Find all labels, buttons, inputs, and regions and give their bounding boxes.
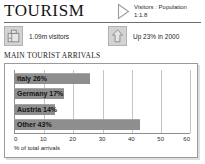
chart-bars: Italy 26%Germany 17%Austria 14%Other 43%	[14, 70, 190, 133]
stats-row: 1.09m visitors Up 23% in 2000	[4, 26, 201, 48]
chart-x-tick: 40	[128, 135, 135, 143]
chart-x-tick: 30	[99, 135, 106, 143]
chart-bar-label: Austria 14%	[17, 104, 57, 115]
stat-visitors-label: 1.09m visitors	[29, 32, 69, 41]
ratio-text: Visitors : Population 1:1.8	[134, 2, 187, 19]
bar-chart-panel: Italy 26%Germany 17%Austria 14%Other 43%…	[4, 63, 198, 158]
triangle-right-icon	[117, 3, 130, 20]
header-divider	[4, 22, 201, 23]
stat-visitors: 1.09m visitors	[4, 26, 69, 46]
chart-x-tick: 20	[69, 135, 76, 143]
chart-x-axis	[14, 133, 190, 134]
stat-growth: Up 23% in 2000	[108, 26, 179, 46]
chart-bar-label: Germany 17%	[17, 88, 63, 99]
chart-bar-label: Other 43%	[17, 119, 52, 130]
chart-bar-row: Italy 26%	[14, 73, 190, 84]
chart-x-tick: 0	[14, 135, 17, 143]
page-title: TOURISM	[4, 2, 84, 20]
chart-bar-row: Germany 17%	[14, 88, 190, 99]
chart-x-axis-label: % of total arrivals	[14, 144, 60, 152]
chart-x-tick-labels: 0102030405060	[14, 135, 190, 144]
visitors-population-ratio: Visitors : Population 1:1.8	[117, 2, 187, 20]
chart-x-tick: 50	[157, 135, 164, 143]
suitcase-icon	[4, 26, 23, 46]
chart-bar-label: Italy 26%	[17, 73, 47, 84]
gridline	[190, 70, 191, 133]
up-arrow-icon	[108, 26, 127, 46]
ratio-value: 1:1.8	[134, 11, 187, 19]
chart-bar-row: Other 43%	[14, 119, 190, 130]
chart-bar-row: Austria 14%	[14, 104, 190, 115]
chart-x-tick: 10	[40, 135, 47, 143]
section-title: MAIN TOURIST ARRIVALS	[4, 51, 100, 60]
header: TOURISM Visitors : Population 1:1.8	[4, 2, 201, 24]
chart-plot-area: Italy 26%Germany 17%Austria 14%Other 43%	[14, 70, 190, 133]
ratio-caption: Visitors : Population	[134, 3, 187, 11]
chart-x-tick: 60	[183, 135, 190, 143]
stat-growth-label: Up 23% in 2000	[133, 32, 179, 41]
